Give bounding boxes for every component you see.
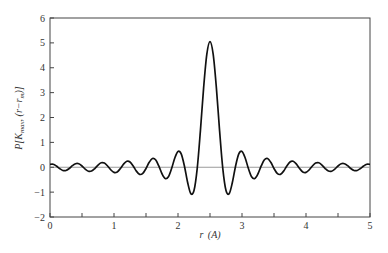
y-label-end: )] [13, 86, 25, 94]
data-series-line [50, 42, 370, 195]
y-tick-label: 3 [40, 87, 45, 98]
x-tick-label: 5 [368, 220, 373, 231]
y-tick-label: 4 [40, 62, 45, 73]
plot-frame [50, 18, 370, 217]
x-tick-label: 3 [240, 220, 245, 231]
y-tick-label: 6 [40, 13, 45, 24]
y-tick-label: −1 [34, 187, 45, 198]
x-tick-label: 1 [112, 220, 117, 231]
x-tick-label: 2 [176, 220, 181, 231]
y-tick-label: −2 [34, 212, 45, 223]
y-label-p: P[K [13, 132, 24, 151]
y-tick-label: 1 [40, 137, 45, 148]
x-tick-label: 4 [304, 220, 309, 231]
chart: −2−10123456 012345 r (A) P[Kmax, (r−rm)] [0, 0, 388, 253]
x-axis-label-symbol: r [199, 229, 203, 240]
y-tick-label: 5 [40, 37, 45, 48]
y-axis-ticks: −2−10123456 [34, 13, 54, 223]
y-tick-label: 0 [40, 162, 45, 173]
y-axis-label: P[Kmax, (r−rm)] [13, 86, 26, 151]
y-label-sub-max: max [18, 121, 26, 134]
x-axis-label-unit: (A) [208, 229, 221, 241]
y-label-mid: , (r−r [13, 98, 25, 121]
x-axis-label: r (A) [199, 229, 221, 241]
x-tick-label: 0 [48, 220, 53, 231]
y-tick-label: 2 [40, 112, 45, 123]
